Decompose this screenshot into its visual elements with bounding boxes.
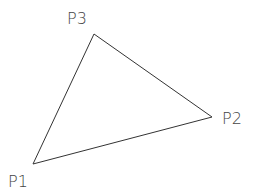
- edge-p1-p2: [33, 117, 212, 164]
- edge-p3-p1: [33, 34, 94, 164]
- edge-p2-p3: [94, 34, 212, 117]
- label-p2: P2: [222, 109, 242, 128]
- triangle-diagram: P1 P2 P3: [0, 0, 261, 191]
- label-p1: P1: [8, 172, 28, 191]
- vertex-labels: P1 P2 P3: [8, 9, 242, 191]
- triangle-edges: [33, 34, 212, 164]
- label-p3: P3: [67, 9, 87, 28]
